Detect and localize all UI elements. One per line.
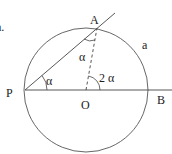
label-point-B: B	[157, 93, 165, 107]
label-angle-P: α	[46, 74, 53, 88]
label-point-O: O	[81, 98, 90, 112]
label-point-P: P	[6, 86, 13, 100]
label-angle-A: α	[79, 50, 86, 64]
corner-text: a.	[0, 20, 4, 34]
circle-diagram: a. A a α 2 α α P O B	[0, 0, 172, 154]
label-point-A: A	[90, 13, 99, 27]
label-angle-O: 2 α	[99, 71, 115, 85]
dashed-line-OA	[86, 28, 97, 90]
label-arc-a: a	[142, 38, 148, 52]
angle-arc-A	[84, 39, 95, 41]
